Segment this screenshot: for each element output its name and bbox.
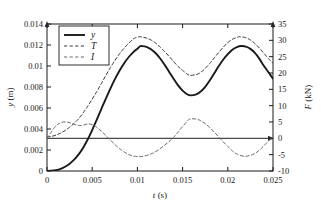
y2-tick-label: 0 [278,133,282,143]
y2-tick-label: 20 [278,68,287,78]
x-tick-label: 0.02 [220,175,235,185]
y-tick-label: 0.004 [24,124,44,134]
y2-tick-label: 25 [278,52,287,62]
x-tick-label: 0.025 [263,175,282,185]
y2-axis-title: F (kN) [303,85,313,111]
line-chart: 00.0050.010.0150.020.025 00.0020.0040.00… [0,0,321,204]
y2-tick-label: 35 [278,19,287,29]
figure-container: 00.0050.010.0150.020.025 00.0020.0040.00… [0,0,321,204]
y-tick-label: 0.008 [24,82,43,92]
y-tick-label: 0.002 [24,145,43,155]
y2-tick-label: 10 [278,101,287,111]
y-tick-label: 0 [39,166,43,176]
y2-tick-label: 5 [278,117,282,127]
x-tick-label: 0.005 [83,175,102,185]
y-axis-title: y (m) [5,87,15,107]
y2-tick-label: 15 [278,84,287,94]
x-tick-label: 0 [45,175,49,185]
y2-tick-label: -5 [278,150,285,160]
legend-label-y: y [90,30,96,40]
y2-tick-label: 30 [278,35,287,45]
y-tick-label: 0.012 [24,40,43,50]
legend-label-T: T [91,41,97,51]
x-tick-label: 0.01 [130,175,145,185]
y-tick-label: 0.01 [28,61,43,71]
y2-tick-label: -10 [278,166,289,176]
legend: yTI [59,26,109,65]
x-axis-title: t (s) [153,190,167,200]
y-tick-label: 0.014 [24,19,44,29]
y-tick-label: 0.006 [24,103,43,113]
x-tick-label: 0.015 [173,175,192,185]
